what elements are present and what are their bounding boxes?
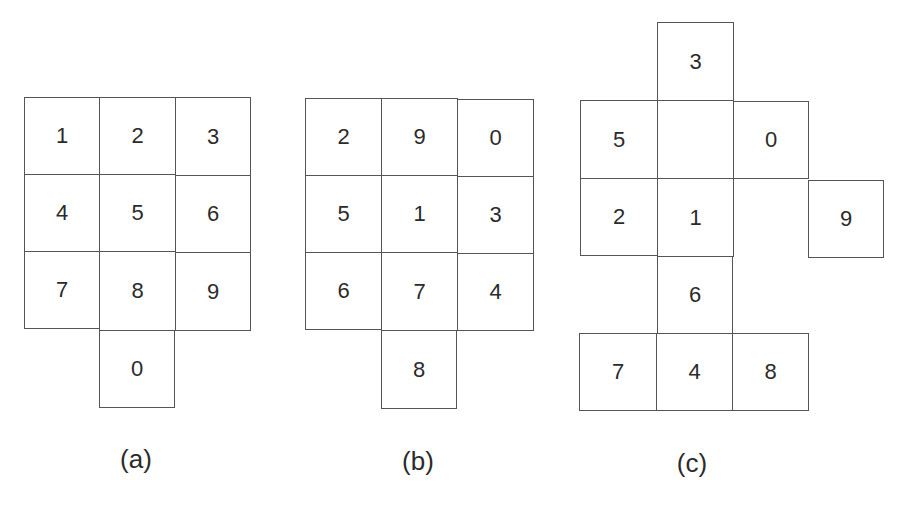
key-9: 9	[808, 180, 884, 258]
key-7: 7	[579, 333, 657, 411]
key-1: 1	[381, 175, 458, 253]
key-1: 1	[24, 97, 100, 175]
key-2: 2	[99, 97, 176, 175]
key-6: 6	[305, 252, 382, 330]
key-3: 3	[657, 22, 734, 101]
panel-caption-c: (c)	[677, 448, 707, 479]
key-3: 3	[175, 97, 251, 176]
key-6: 6	[175, 175, 251, 253]
panel-caption-a: (a)	[120, 444, 152, 475]
panel-caption-b: (b)	[402, 446, 434, 477]
key-7: 7	[381, 252, 458, 331]
key-9: 9	[175, 252, 251, 331]
key-5: 5	[580, 100, 658, 179]
key-6: 6	[657, 256, 733, 334]
key-8: 8	[99, 251, 176, 331]
key-3: 3	[457, 176, 534, 254]
key-8: 8	[732, 333, 809, 411]
key-0: 0	[99, 330, 175, 408]
key-5: 5	[99, 174, 176, 252]
key-0: 0	[733, 101, 809, 179]
key-2: 2	[305, 98, 382, 176]
key-2: 2	[580, 178, 658, 256]
key-0: 0	[457, 99, 534, 177]
key-blank	[657, 100, 734, 179]
key-4: 4	[457, 253, 534, 331]
key-7: 7	[24, 251, 100, 329]
key-9: 9	[381, 98, 458, 176]
key-4: 4	[656, 333, 733, 411]
key-8: 8	[381, 330, 457, 409]
key-5: 5	[305, 175, 382, 253]
key-4: 4	[24, 174, 100, 252]
key-1: 1	[657, 178, 734, 257]
